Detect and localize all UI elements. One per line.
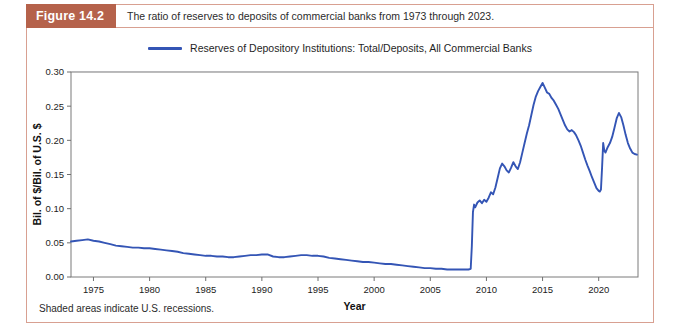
figure-header: Figure 14.2 The ratio of reserves to dep…: [26, 4, 654, 28]
x-axis-title: Year: [343, 300, 365, 312]
x-tick-label: 2005: [420, 284, 441, 295]
x-tick-label: 1990: [251, 284, 272, 295]
y-tick-label: 0.00: [46, 271, 65, 282]
chart-area: 0.000.050.100.150.200.250.30 19751980198…: [27, 28, 655, 323]
y-tick-label: 0.20: [46, 135, 65, 146]
x-tick-label: 1995: [307, 284, 328, 295]
x-tick-label: 1975: [83, 284, 104, 295]
figure-footnote: Shaded areas indicate U.S. recessions.: [39, 303, 214, 314]
x-tick-label: 2000: [364, 284, 385, 295]
figure-caption: The ratio of reserves to deposits of com…: [116, 4, 654, 28]
y-tick-label: 0.30: [46, 66, 65, 77]
y-tick-label: 0.15: [46, 169, 65, 180]
y-axis-title: Bil. of $/Bil. of U.S. $: [31, 123, 43, 225]
x-tick-label: 1985: [195, 284, 216, 295]
figure-root: Figure 14.2 The ratio of reserves to dep…: [0, 0, 679, 334]
figure-number-badge: Figure 14.2: [26, 4, 116, 28]
figure-body: Reserves of Depository Institutions: Tot…: [26, 28, 654, 323]
y-tick-label: 0.05: [46, 237, 65, 248]
plot-frame: [71, 72, 638, 277]
y-tick-label: 0.10: [46, 203, 65, 214]
x-tick-label: 2020: [588, 284, 609, 295]
line-chart-svg: 0.000.050.100.150.200.250.30 19751980198…: [27, 28, 655, 323]
x-tick-label: 2010: [476, 284, 497, 295]
y-axis-ticks: 0.000.050.100.150.200.250.30: [46, 66, 72, 282]
x-tick-label: 2015: [532, 284, 553, 295]
x-axis-ticks: 1975198019851990199520002005201020152020: [83, 277, 609, 295]
y-tick-label: 0.25: [46, 101, 65, 112]
x-tick-label: 1980: [139, 284, 160, 295]
